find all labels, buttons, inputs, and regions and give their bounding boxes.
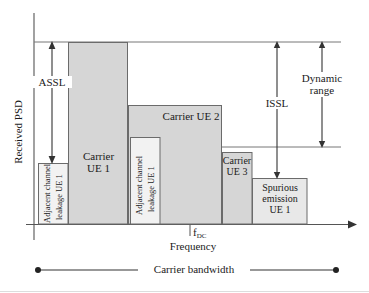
spurious-line2: emission <box>253 193 307 204</box>
x-axis-label: Frequency <box>148 240 238 252</box>
block-label-adjacent-channel-leakage-left: Adjacent channel leakage UE 1 <box>39 164 68 223</box>
block-label-adjacent-channel-leakage-right: Adjacent channel leakage UE 1 <box>131 138 160 223</box>
carrier-ue3-line2: UE 3 <box>221 166 253 177</box>
fdc-subscript: DC <box>197 232 207 240</box>
carrier-bandwidth-dot-left <box>35 267 41 273</box>
acl-right-line2: leakage UE 1 <box>147 156 157 223</box>
block-label-carrier-ue3: Carrier UE 3 <box>221 155 253 177</box>
x-axis-arrowhead <box>348 221 357 229</box>
spurious-line1: Spurious <box>253 182 307 193</box>
dynamic-range-label-line1: Dynamic <box>293 72 351 84</box>
block-label-carrier-ue2: Carrier UE 2 <box>160 110 222 122</box>
x-axis-tick-label-fdc: fDC <box>193 226 223 241</box>
acl-left-line1: Adjacent channel <box>43 164 53 223</box>
carrier-ue1-line1: Carrier <box>69 150 128 162</box>
acl-left-line2: leakage UE 1 <box>55 172 65 223</box>
issl-arrowhead-down <box>274 172 280 179</box>
dynamic-range-label-line2: range <box>293 84 351 96</box>
carrier-ue1-line2: UE 1 <box>69 162 128 174</box>
carrier-bandwidth-dot-right <box>333 267 339 273</box>
dynamic-range-label: Dynamic range <box>293 72 351 97</box>
issl-label: ISSL <box>257 97 297 109</box>
assl-arrowhead-down <box>49 156 56 164</box>
assl-label: ASSL <box>32 76 72 88</box>
spurious-line3: UE 1 <box>253 204 307 215</box>
block-carrier-ue1 <box>69 43 128 225</box>
carrier-ue3-line1: Carrier <box>221 155 253 166</box>
block-label-carrier-ue1: Carrier UE 1 <box>69 150 128 175</box>
y-axis-label: Received PSD <box>12 100 24 164</box>
acl-right-line1: Adjacent channel <box>135 148 145 223</box>
carrier-bandwidth-label: Carrier bandwidth <box>138 263 250 275</box>
block-label-spurious-emission-ue1: Spurious emission UE 1 <box>253 182 307 216</box>
